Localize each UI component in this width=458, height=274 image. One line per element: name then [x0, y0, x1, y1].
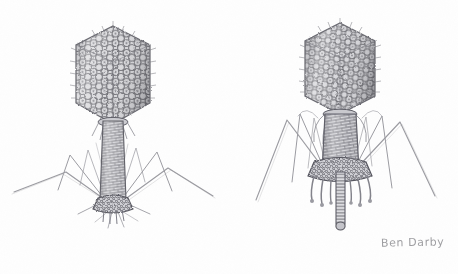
phage-right	[256, 18, 437, 230]
phage-illustration	[0, 0, 458, 274]
phage-left	[12, 20, 215, 228]
phage-right-head	[299, 18, 384, 120]
phage-left-head	[70, 20, 160, 132]
phage-right-tail-tube	[334, 170, 347, 230]
artist-signature: Ben Darby	[381, 235, 445, 249]
phage-left-baseplate	[93, 195, 133, 224]
drawing-canvas: Ben Darby	[0, 0, 458, 274]
